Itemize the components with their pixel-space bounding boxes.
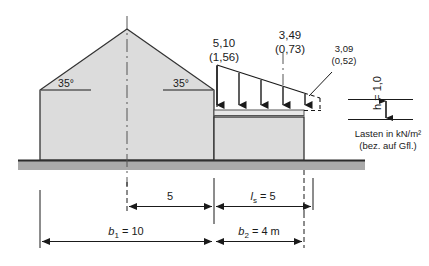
dim-half-main-span: 5 bbox=[167, 190, 173, 202]
annex-building bbox=[214, 110, 304, 160]
peak-load-bracket: (1,56) bbox=[209, 51, 239, 63]
edge-load-leader bbox=[309, 72, 332, 96]
mid-load-value: 3,49 bbox=[279, 29, 301, 41]
legend-line-2: (bez. auf Gfl.) bbox=[359, 140, 417, 151]
load-arrows bbox=[217, 66, 305, 105]
dim-annex-width: b2 = 4 m bbox=[238, 225, 279, 240]
dimension-row-upper bbox=[127, 170, 313, 224]
angle-label-left: 35° bbox=[58, 77, 74, 89]
edge-load-value: 3,09 bbox=[335, 43, 354, 54]
angle-label-right: 35° bbox=[173, 77, 189, 89]
mid-load-bracket: (0,73) bbox=[275, 43, 305, 55]
legend-line-1: Lasten in kN/m² bbox=[355, 128, 422, 139]
dim-main-building-width: b1 = 10 bbox=[108, 225, 143, 240]
height-marker-label: h = 1,0 bbox=[371, 76, 383, 110]
ground-band bbox=[18, 161, 365, 171]
dim-drift-length: ls = 5 bbox=[250, 190, 275, 205]
dim-annex-width-suffix: = 4 m bbox=[249, 225, 280, 237]
snow-load-diagram: 35° 35° 5,10 (1,56) 3,49 (0,73) 3,09 (0,… bbox=[0, 0, 429, 266]
dim-main-width-suffix: = 10 bbox=[119, 225, 144, 237]
edge-load-bracket: (0,52) bbox=[332, 55, 357, 66]
peak-load-value: 5,10 bbox=[213, 37, 235, 49]
dim-drift-length-suffix: = 5 bbox=[257, 190, 276, 202]
